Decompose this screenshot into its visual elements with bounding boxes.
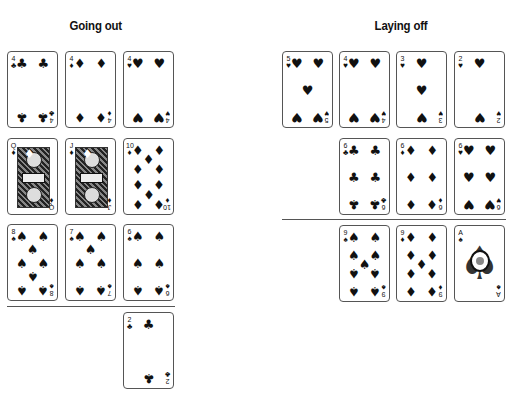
spades-pip-icon: ♠: [131, 283, 144, 296]
playing-card-9-of-diamonds[interactable]: 9♦9♦♦♦♦♦♦♦♦♦♦: [396, 225, 447, 302]
hearts-pip-icon: ♥: [312, 56, 325, 69]
playing-card-q-of-diamonds[interactable]: Q♦Q♦♦: [7, 138, 58, 215]
spades-pip-icon: ♠: [73, 229, 86, 242]
playing-card-10-of-diamonds[interactable]: 10♦10♦♦♦♦♦♦♦♦♦♦♦: [123, 138, 174, 215]
playing-card-a-of-spades[interactable]: A♠A♠♠: [454, 225, 505, 302]
playing-card-4-of-clubs[interactable]: 4♣4♣♣♣♣♣: [7, 51, 58, 128]
playing-card-6-of-clubs[interactable]: 6♣6♣♣♣♣♣♣♣: [339, 138, 390, 215]
playing-card-6-of-spades[interactable]: 6♠6♠♠♠♠♠♠♠: [123, 224, 174, 301]
hearts-suit-icon: ♥: [457, 62, 464, 70]
spades-pip-icon: ♠: [26, 270, 39, 283]
card-rank: A: [496, 291, 501, 298]
hearts-pip-icon: ♥: [347, 56, 360, 69]
laying-off-title: Laying off: [375, 18, 428, 33]
card-corner-index: 2♣: [164, 370, 171, 385]
diamonds-suit-icon: ♦: [10, 149, 17, 157]
ace-medallion-icon: [470, 250, 490, 272]
hearts-pip-icon: ♥: [301, 83, 314, 96]
card-rank: 4: [108, 117, 112, 124]
hearts-pip-icon: ♥: [484, 143, 497, 156]
diamonds-pip-icon: ♦: [153, 163, 166, 176]
clubs-pip-icon: ♣: [347, 197, 360, 210]
spades-pip-icon: ♠: [131, 229, 144, 242]
card-corner-index: 2♥: [457, 55, 464, 70]
playing-card-3-of-hearts[interactable]: 3♥3♥♥♥♥: [396, 51, 447, 128]
face-head-graphic: [84, 187, 100, 203]
clubs-pip-icon: ♣: [37, 56, 50, 69]
hearts-pip-icon: ♥: [153, 56, 166, 69]
spades-pip-icon: ♠: [131, 256, 144, 269]
spades-pip-icon: ♠: [95, 229, 108, 242]
spades-pip-icon: ♠: [37, 283, 50, 296]
spades-pip-icon: ♠: [26, 243, 39, 256]
spades-pip-icon: ♠: [369, 230, 382, 243]
spades-pip-icon: ♠: [84, 243, 97, 256]
diamonds-pip-icon: ♦: [153, 197, 166, 210]
diamonds-pip-icon: ♦: [131, 163, 144, 176]
hearts-pip-icon: ♥: [415, 110, 428, 123]
diamonds-pip-icon: ♦: [404, 284, 417, 297]
spades-pip-icon: ♠: [153, 229, 166, 242]
card-rank: 2: [497, 117, 501, 124]
playing-card-5-of-hearts[interactable]: 5♥5♥♥♥♥♥♥: [282, 51, 333, 128]
card-corner-index: 3♥: [437, 109, 444, 124]
spades-pip-icon: ♠: [73, 283, 86, 296]
playing-card-9-of-spades[interactable]: 9♠9♠♠♠♠♠♠♠♠♠♠: [339, 225, 390, 302]
playing-card-j-of-diamonds[interactable]: J♦J♦♦: [65, 138, 116, 215]
card-rank: 8: [50, 290, 54, 297]
diamonds-pip-icon: ♦: [404, 170, 417, 183]
spades-pip-icon: ♠: [153, 283, 166, 296]
hearts-pip-icon: ♥: [484, 197, 497, 210]
card-rank: 7: [108, 290, 112, 297]
hearts-suit-icon: ♥: [495, 109, 502, 117]
going-out-separator: [7, 306, 175, 307]
playing-card-7-of-spades[interactable]: 7♠7♠♠♠♠♠♠♠♠: [65, 224, 116, 301]
face-head-graphic: [26, 187, 42, 203]
spades-pip-icon: ♠: [347, 266, 360, 279]
diamonds-pip-icon: ♦: [404, 230, 417, 243]
clubs-pip-icon: ♣: [369, 170, 382, 183]
hearts-pip-icon: ♥: [312, 110, 325, 123]
diamonds-pip-icon: ♦: [426, 230, 439, 243]
card-corner-index: 2♥: [495, 109, 502, 124]
diamonds-pip-icon: ♦: [404, 143, 417, 156]
card-corner-index: J♦: [68, 142, 75, 157]
card-rank: 4: [50, 117, 54, 124]
card-rank: 6: [439, 204, 443, 211]
playing-card-6-of-hearts[interactable]: 6♥6♥♥♥♥♥♥♥: [454, 138, 505, 215]
playing-card-8-of-spades[interactable]: 8♠8♠♠♠♠♠♠♠♠♠: [7, 224, 58, 301]
card-corner-index: 3♥: [399, 55, 406, 70]
playing-card-6-of-diamonds[interactable]: 6♦6♦♦♦♦♦♦♦: [396, 138, 447, 215]
hearts-pip-icon: ♥: [484, 170, 497, 183]
playing-card-4-of-hearts[interactable]: 4♥4♥♥♥♥♥: [123, 51, 174, 128]
card-rank: 6: [382, 204, 386, 211]
hearts-pip-icon: ♥: [369, 110, 382, 123]
card-rank: 9: [439, 291, 443, 298]
hearts-suit-icon: ♥: [437, 109, 444, 117]
going-out-title: Going out: [70, 18, 122, 33]
spades-pip-icon: ♠: [369, 266, 382, 279]
hearts-pip-icon: ♥: [462, 197, 475, 210]
hearts-suit-icon: ♥: [399, 62, 406, 70]
diamonds-pip-icon: ♦: [73, 110, 86, 123]
card-rank: 6: [166, 290, 170, 297]
card-rank: 5: [325, 117, 329, 124]
laying-off-separator: [282, 219, 506, 220]
hearts-pip-icon: ♥: [131, 110, 144, 123]
card-corner-index: Q♦: [10, 142, 17, 157]
clubs-pip-icon: ♣: [347, 170, 360, 183]
playing-card-2-of-clubs[interactable]: 2♣2♣♣♣: [123, 312, 174, 389]
diamonds-pip-icon: ♦: [426, 266, 439, 279]
spades-pip-icon: ♠: [347, 230, 360, 243]
diamonds-pip-icon: ♦: [426, 170, 439, 183]
card-rank: 6: [497, 204, 501, 211]
card-rank: 4: [382, 117, 386, 124]
card-rank: J: [108, 204, 112, 211]
playing-card-4-of-hearts[interactable]: 4♥4♥♥♥♥♥: [339, 51, 390, 128]
spades-pip-icon: ♠: [95, 283, 108, 296]
diamonds-pip-icon: ♦: [95, 110, 108, 123]
playing-card-4-of-diamonds[interactable]: 4♦4♦♦♦♦♦: [65, 51, 116, 128]
hearts-pip-icon: ♥: [153, 110, 166, 123]
diamonds-suit-icon: ♦: [82, 147, 93, 161]
playing-card-2-of-hearts[interactable]: 2♥2♥♥♥: [454, 51, 505, 128]
